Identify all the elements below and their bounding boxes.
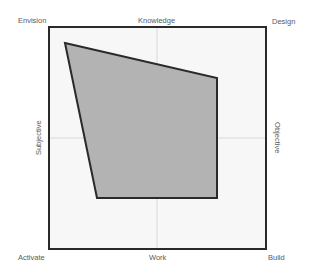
corner-label-design: Design xyxy=(272,18,295,26)
corner-label-build: Build xyxy=(268,254,285,262)
quadrant-diagram: Envision Design Activate Build Knowledge… xyxy=(0,0,310,273)
axis-label-knowledge: Knowledge xyxy=(138,17,175,25)
diagram-canvas xyxy=(0,0,310,273)
axis-label-subjective: Subjective xyxy=(34,120,42,155)
axis-label-objective: Objective xyxy=(273,122,281,153)
corner-label-activate: Activate xyxy=(18,254,45,262)
corner-label-envision: Envision xyxy=(18,17,46,25)
axis-label-work: Work xyxy=(149,254,166,262)
